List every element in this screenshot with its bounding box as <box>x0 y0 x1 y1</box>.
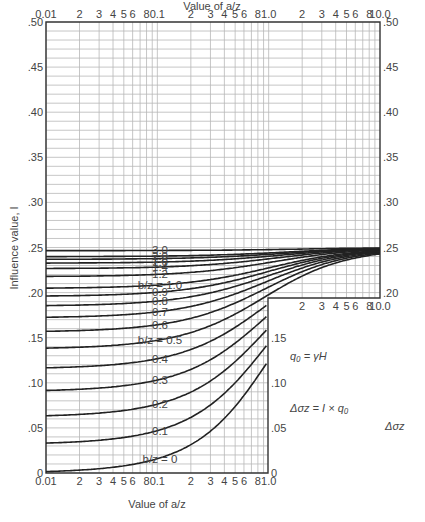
x-tick-bottom: 8 <box>255 475 261 487</box>
y-axis-title: Influence value, I <box>8 206 20 289</box>
y-tick-left: .45 <box>28 61 43 73</box>
curve-label: 3.0 <box>152 244 168 256</box>
y-tick-right: .45 <box>383 61 398 73</box>
y-tick-left: 0 <box>37 467 43 479</box>
x-tick-bottom: 6 <box>130 475 136 487</box>
inset-diagram: q₀ = γHΔσz = I × q₀Δσz <box>289 350 405 432</box>
y-tick-right: .35 <box>383 151 398 163</box>
x-tick-bottom: 2 <box>76 475 82 487</box>
y-tick-left: .50 <box>28 16 43 28</box>
curve-label: b/z = 0.5 <box>138 334 182 346</box>
y-tick-left: .40 <box>28 106 43 118</box>
x-tick-top: 2 <box>76 8 82 20</box>
x-tick-bottom: 3 <box>96 475 102 487</box>
y-tick-right: .40 <box>383 106 398 118</box>
x-axis-bottom-title: Value of a/z <box>128 498 185 510</box>
x-tick-bottom: 3 <box>207 475 213 487</box>
curve-label: b/z = 1.0 <box>138 279 182 291</box>
y-tick-left: .25 <box>28 242 43 254</box>
curve-label: 0.7 <box>152 306 168 318</box>
x-tick-bottom: 2 <box>188 475 194 487</box>
curve-label: 0.6 <box>152 319 168 331</box>
x-tick-inset: 3 <box>319 300 325 312</box>
y-tick-right-inset: .05 <box>271 422 286 434</box>
y-tick-left: .15 <box>28 332 43 344</box>
inset-eq2: Δσz = I × q₀ <box>289 402 349 414</box>
x-tick-top: 3 <box>96 8 102 20</box>
x-tick-bottom: 0.1 <box>150 475 165 487</box>
y-tick-left: .10 <box>28 377 43 389</box>
influence-chart: 0.012345680.12345681.023456810.0Value of… <box>0 0 425 522</box>
x-tick-bottom: 5 <box>121 475 127 487</box>
curve-label: 0.2 <box>152 398 168 410</box>
curve-label: b/z = 0 <box>143 453 178 465</box>
y-tick-left: .20 <box>28 287 43 299</box>
x-tick-top: 6 <box>130 8 136 20</box>
y-tick-right-inset: .10 <box>271 377 286 389</box>
y-tick-left: .30 <box>28 196 43 208</box>
inset-eq1: q₀ = γH <box>290 350 327 362</box>
y-tick-right: .50 <box>383 16 398 28</box>
y-tick-left: .05 <box>28 422 43 434</box>
x-tick-top: 5 <box>121 8 127 20</box>
curves <box>46 248 380 472</box>
x-tick-inset: 10.0 <box>369 300 390 312</box>
x-tick-inset: 6 <box>352 300 358 312</box>
x-tick-top: 2 <box>299 8 305 20</box>
inset-stress: Δσz <box>384 420 405 432</box>
x-tick-top: 5 <box>343 8 349 20</box>
x-tick-top: 4 <box>333 8 339 20</box>
x-tick-top: 4 <box>110 8 116 20</box>
x-tick-bottom: 4 <box>110 475 116 487</box>
x-tick-inset: 2 <box>299 300 305 312</box>
x-tick-inset: 5 <box>343 300 349 312</box>
x-tick-top: 3 <box>319 8 325 20</box>
x-tick-bottom: 4 <box>221 475 227 487</box>
x-axis-inset: 23456810.0 <box>299 300 391 312</box>
x-tick-inset: 4 <box>333 300 339 312</box>
x-tick-top: 6 <box>352 8 358 20</box>
curve-label: 0.4 <box>152 353 169 365</box>
x-tick-bottom: 6 <box>241 475 247 487</box>
x-axis-top-title: Value of a/z <box>183 0 240 12</box>
y-tick-right: .20 <box>383 287 398 299</box>
y-tick-right: .25 <box>383 242 398 254</box>
curve-label: 0.3 <box>152 374 168 386</box>
x-tick-top: 1.0 <box>261 8 276 20</box>
y-tick-right: .30 <box>383 196 398 208</box>
x-axis-top: 0.012345680.12345681.023456810.0Value of… <box>35 0 390 20</box>
x-tick-top: 6 <box>241 8 247 20</box>
x-axis-bottom: 0.012345680.12345681.0Value of a/z <box>35 475 276 510</box>
y-tick-right-inset: 0 <box>271 467 277 479</box>
x-tick-bottom: 5 <box>232 475 238 487</box>
curve-label: 0.1 <box>152 425 168 437</box>
x-tick-top: 8 <box>255 8 261 20</box>
y-tick-left: .35 <box>28 151 43 163</box>
x-tick-top: 0.1 <box>150 8 165 20</box>
y-tick-right-inset: .15 <box>271 332 286 344</box>
